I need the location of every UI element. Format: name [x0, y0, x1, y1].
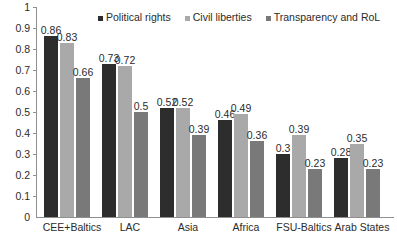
bar-value-label: 0.52	[173, 97, 193, 108]
x-axis-line	[36, 217, 394, 218]
y-axis-tick-mark	[33, 112, 37, 113]
bar: 0.23	[366, 169, 380, 217]
y-axis-tick-label: 0.8	[2, 44, 30, 54]
bar-group: 0.860.830.66CEE+Baltics	[44, 7, 100, 217]
bar-value-label: 0.49	[231, 103, 251, 114]
y-axis-tick-mark	[33, 154, 37, 155]
y-axis-tick-mark	[33, 91, 37, 92]
y-axis-tick-mark	[33, 49, 37, 50]
x-axis-category-label: Arab States	[328, 221, 396, 233]
bar-chart: Political rightsCivil libertiesTranspare…	[0, 0, 397, 248]
bar-value-label: 0.28	[331, 147, 351, 158]
bar-value-label: 0.66	[73, 67, 93, 78]
bar: 0.52	[160, 108, 174, 217]
bar-group: 0.730.720.5LAC	[102, 7, 158, 217]
bar-value-label: 0.36	[247, 130, 267, 141]
bar-value-label: 0.83	[57, 32, 77, 43]
bar-group: 0.280.350.23Arab States	[334, 7, 390, 217]
bar-value-label: 0.39	[189, 124, 209, 135]
bar-group: 0.520.520.39Asia	[160, 7, 216, 217]
bar-value-label: 0.3	[276, 143, 291, 154]
bar-value-label: 0.35	[347, 133, 367, 144]
y-axis-tick-label: 1	[2, 2, 30, 12]
y-axis-tick-mark	[33, 70, 37, 71]
y-axis-tick-label: 0.1	[2, 191, 30, 201]
plot-area: 10.90.80.70.60.50.40.30.20.10 0.860.830.…	[36, 7, 394, 217]
bar: 0.73	[102, 64, 116, 217]
bar: 0.36	[250, 141, 264, 217]
y-axis-tick-label: 0.2	[2, 170, 30, 180]
bar-value-label: 0.23	[305, 158, 325, 169]
bar-value-label: 0.23	[363, 158, 383, 169]
bar-group: 0.460.490.36Africa	[218, 7, 274, 217]
y-axis-tick-label: 0.9	[2, 23, 30, 33]
bar: 0.72	[118, 66, 132, 217]
bar-group: 0.30.390.23FSU-Baltics	[276, 7, 332, 217]
bar: 0.66	[76, 78, 90, 217]
bar: 0.86	[44, 36, 58, 217]
bar-value-label: 0.72	[115, 55, 135, 66]
y-axis-tick-mark	[33, 28, 37, 29]
bar: 0.39	[192, 135, 206, 217]
y-axis-tick-mark	[33, 7, 37, 8]
y-axis-tick-label: 0.6	[2, 86, 30, 96]
y-axis-tick-mark	[33, 175, 37, 176]
bar-value-label: 0.5	[134, 101, 149, 112]
bar: 0.3	[276, 154, 290, 217]
y-axis-tick-label: 0.7	[2, 65, 30, 75]
y-axis-tick-label: 0.5	[2, 107, 30, 117]
bar: 0.23	[308, 169, 322, 217]
y-axis-tick-mark	[33, 133, 37, 134]
bar-value-label: 0.39	[289, 124, 309, 135]
bar: 0.39	[292, 135, 306, 217]
y-axis-tick-mark	[33, 196, 37, 197]
bar: 0.5	[134, 112, 148, 217]
y-axis-tick-label: 0	[2, 212, 30, 222]
y-axis-tick-label: 0.3	[2, 149, 30, 159]
bar: 0.35	[350, 144, 364, 218]
y-axis-tick-label: 0.4	[2, 128, 30, 138]
bar: 0.46	[218, 120, 232, 217]
bar: 0.28	[334, 158, 348, 217]
